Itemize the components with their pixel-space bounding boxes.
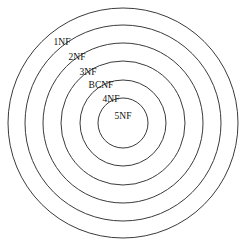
rings-group — [8, 8, 238, 238]
concentric-circles-svg: 1NF2NF3NFBCNF4NF5NF — [0, 0, 247, 245]
ring-label-5nf: 5NF — [115, 111, 132, 121]
ring-label-4nf: 4NF — [103, 94, 120, 104]
ring-circle-5nf — [98, 98, 148, 148]
ring-label-3nf: 3NF — [80, 67, 97, 77]
ring-label-bcnf: BCNF — [89, 80, 114, 90]
ring-circle-2nf — [25, 25, 221, 221]
ring-label-2nf: 2NF — [69, 52, 86, 62]
ring-label-1nf: 1NF — [54, 37, 71, 47]
ring-labels-group: 1NF2NF3NFBCNF4NF5NF — [54, 37, 132, 121]
normal-forms-diagram: 1NF2NF3NFBCNF4NF5NF — [0, 0, 247, 245]
ring-circle-3nf — [43, 43, 203, 203]
ring-circle-4nf — [80, 80, 166, 166]
